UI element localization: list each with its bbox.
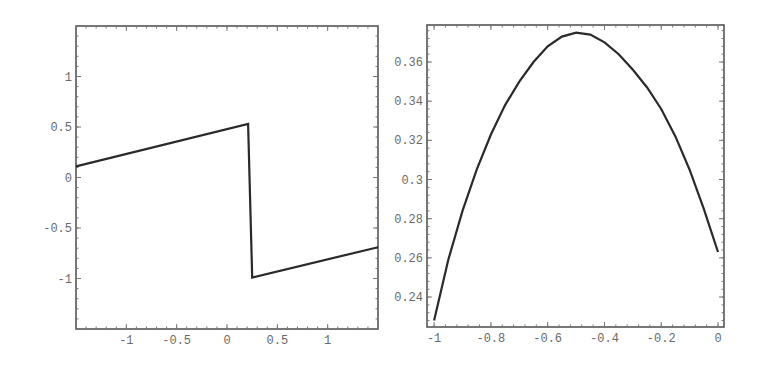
data-line — [434, 33, 718, 321]
y-tick-label: 0 — [65, 172, 72, 186]
plot-frame — [76, 26, 378, 329]
x-tick-label: -0.8 — [476, 332, 505, 346]
y-tick-label: 0.36 — [394, 56, 423, 70]
y-tick-label: 0.28 — [394, 213, 423, 227]
y-tick-label: 0.26 — [394, 252, 423, 266]
y-tick-label: -1 — [58, 273, 72, 287]
plot-frame — [427, 25, 724, 327]
x-tick-label: -0.5 — [162, 334, 191, 348]
x-tick-label: 0 — [223, 334, 230, 348]
x-tick-label: -1 — [119, 334, 133, 348]
x-tick-label: -0.4 — [590, 332, 619, 346]
y-tick-label: 0.24 — [394, 291, 423, 305]
y-tick-label: 0.32 — [394, 134, 423, 148]
y-tick-label: 0.34 — [394, 95, 423, 109]
figure: -1-0.500.51-1-0.500.51 -1-0.8-0.6-0.4-0.… — [0, 0, 763, 365]
y-tick-label: -0.5 — [43, 222, 72, 236]
x-tick-label: 0.5 — [267, 334, 289, 348]
x-tick-label: -0.6 — [533, 332, 562, 346]
right-plot: -1-0.8-0.6-0.4-0.200.240.260.280.30.320.… — [394, 25, 724, 346]
x-tick-label: -0.2 — [647, 332, 676, 346]
y-tick-label: 0.3 — [401, 174, 423, 188]
x-tick-label: 0 — [714, 332, 721, 346]
y-tick-label: 0.5 — [50, 121, 72, 135]
data-line — [76, 124, 378, 278]
x-tick-label: 1 — [324, 334, 331, 348]
x-tick-label: -1 — [427, 332, 441, 346]
left-plot: -1-0.500.51-1-0.500.51 — [43, 26, 378, 348]
y-tick-label: 1 — [65, 71, 72, 85]
